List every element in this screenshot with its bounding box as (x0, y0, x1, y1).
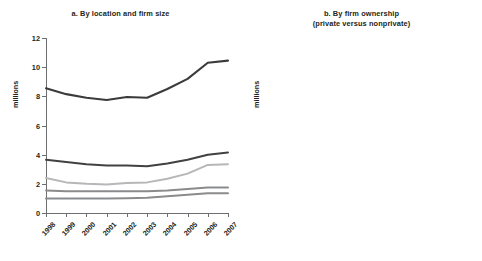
panel-a-x-tick-label: 2002 (121, 220, 139, 238)
panel-a-y-tick-label: 8 (36, 92, 40, 101)
panel-a-x-tick (127, 213, 128, 217)
panel-a-x-tick-label: 2001 (100, 220, 118, 238)
panel-a-x-tick-label: 2005 (181, 220, 199, 238)
panel-a-x-tick-label: 2003 (141, 220, 159, 238)
panel-a-y-tick-label: 6 (36, 121, 40, 130)
panel-a-x-tick-label: 2007 (222, 220, 240, 238)
panel-a-title: a. By location and firm size (0, 9, 241, 19)
panel-a-y-tick (42, 126, 46, 127)
panel-a-y-tick (42, 67, 46, 68)
panel-b-title-line2: (private versus nonprivate) (241, 19, 482, 29)
figure-container: a. By location and firm size millions 02… (0, 0, 482, 261)
panel-a-x-tick (188, 213, 189, 217)
chart-panel-a: a. By location and firm size millions 02… (0, 0, 241, 261)
panel-a-x-tick (208, 213, 209, 217)
panel-a-y-tick-label: 10 (32, 63, 40, 72)
panel-a-y-tick-label: 2 (36, 179, 40, 188)
panel-a-y-tick (42, 184, 46, 185)
panel-b-y-axis-label: millions (252, 81, 261, 108)
panel-a-x-tick (228, 213, 229, 217)
panel-a-y-tick-label: 12 (32, 34, 40, 43)
panel-a-plot-area: 0246810121998199920002001200220032004200… (46, 38, 228, 213)
panel-a-y-axis-label: millions (11, 81, 20, 108)
panel-a-x-tick (66, 213, 67, 217)
panel-a-line-series-4 (46, 187, 228, 191)
panel-a-x-tick (86, 213, 87, 217)
panel-a-series-lines (46, 38, 228, 213)
panel-a-x-tick (107, 213, 108, 217)
panel-a-x-tick (147, 213, 148, 217)
panel-a-x-tick-label: 1999 (60, 220, 78, 238)
panel-a-x-tick (46, 213, 47, 217)
panel-a-line-series-3 (46, 164, 228, 184)
panel-a-x-tick-label: 1998 (40, 220, 58, 238)
panel-b-title-line1: b. By firm ownership (324, 9, 399, 18)
panel-a-x-tick-label: 2000 (80, 220, 98, 238)
panel-b-title: b. By firm ownership (private versus non… (241, 9, 482, 29)
panel-a-line-series-2 (46, 152, 228, 166)
panel-a-title-line1: a. By location and firm size (71, 9, 169, 18)
panel-a-x-axis (46, 213, 228, 214)
panel-a-x-tick-label: 2006 (201, 220, 219, 238)
panel-a-y-tick (42, 155, 46, 156)
panel-a-y-tick-label: 0 (36, 209, 40, 218)
panel-a-line-series-1 (46, 61, 228, 100)
panel-a-y-tick-label: 4 (36, 150, 40, 159)
panel-a-line-series-5 (46, 193, 228, 198)
panel-a-x-tick (167, 213, 168, 217)
chart-panel-b: b. By firm ownership (private versus non… (241, 0, 482, 261)
panel-a-y-tick (42, 38, 46, 39)
panel-a-y-tick (42, 96, 46, 97)
panel-a-x-tick-label: 2004 (161, 220, 179, 238)
